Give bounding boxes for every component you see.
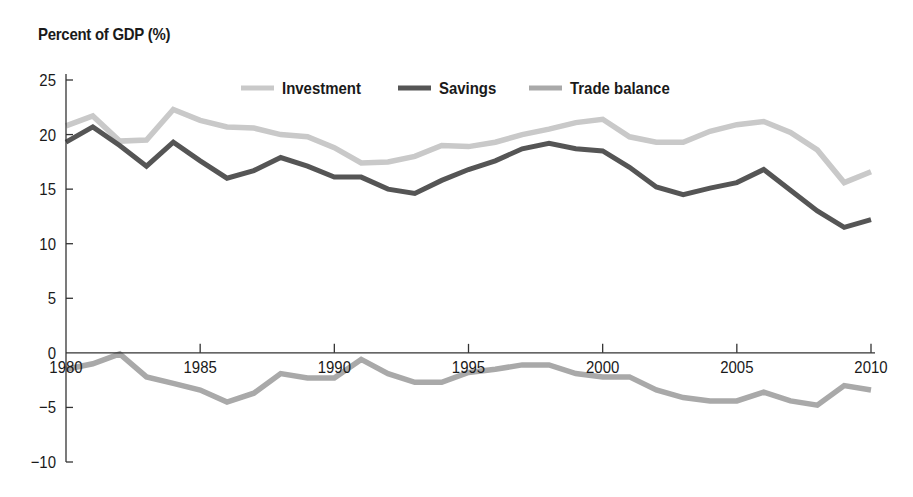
x-tick-label: 1985 xyxy=(184,358,217,376)
y-tick-label: 25 xyxy=(39,71,56,89)
y-tick-label: 10 xyxy=(39,235,56,253)
x-tick-label: 1995 xyxy=(452,358,485,376)
y-tick-label: 5 xyxy=(48,289,56,307)
chart-container: Percent of GDP (%) 2520151050−5−10198019… xyxy=(0,0,913,497)
y-tick-label: −10 xyxy=(31,453,56,471)
x-tick-label: 2000 xyxy=(586,358,619,376)
x-tick-label: 1990 xyxy=(318,358,351,376)
x-tick-label: 2005 xyxy=(720,358,753,376)
legend-label-trade-balance: Trade balance xyxy=(570,79,670,97)
legend-label-investment: Investment xyxy=(282,79,362,97)
legend: InvestmentSavingsTrade balance xyxy=(241,79,670,97)
y-tick-label: −5 xyxy=(39,399,56,417)
x-tick-label: 2010 xyxy=(854,358,887,376)
y-tick-label: 20 xyxy=(39,126,56,144)
line-chart: 2520151050−5−101980198519901995200020052… xyxy=(0,0,913,497)
series-line-savings xyxy=(66,127,871,227)
y-tick-label: 15 xyxy=(39,180,56,198)
legend-label-savings: Savings xyxy=(439,79,496,97)
axes-layer: 2520151050−5−101980198519901995200020052… xyxy=(31,71,888,471)
x-tick-label: 1980 xyxy=(49,358,82,376)
